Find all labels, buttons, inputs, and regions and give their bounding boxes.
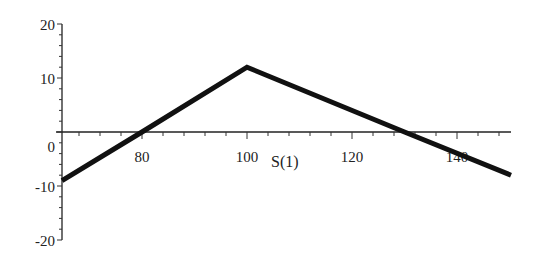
x-tick-label-120: 120 <box>341 149 364 165</box>
x-tick-label-100: 100 <box>236 149 259 165</box>
axes <box>56 24 511 240</box>
y-tick-label-20: 20 <box>40 17 55 33</box>
y-tick-label-10: 10 <box>40 71 55 87</box>
payoff-chart: 80 100 120 140 20 10 0 -10 -20 S(1) <box>0 0 537 262</box>
y-tick-label-neg20: -20 <box>35 233 55 249</box>
y-tick-label-neg10: -10 <box>35 179 55 195</box>
x-tick-label-80: 80 <box>135 149 150 165</box>
x-axis-label: S(1) <box>271 153 299 171</box>
y-tick-label-0: 0 <box>48 139 56 155</box>
